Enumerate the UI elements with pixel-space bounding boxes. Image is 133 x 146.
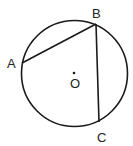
label-c: C bbox=[97, 130, 106, 145]
label-a: A bbox=[7, 56, 16, 71]
geometry-diagram: A B C O bbox=[0, 0, 133, 146]
diagram-svg: A B C O bbox=[0, 0, 133, 146]
center-point-o bbox=[73, 72, 76, 75]
chord-bc bbox=[96, 24, 99, 122]
label-b: B bbox=[92, 6, 101, 21]
chord-ab bbox=[22, 24, 96, 63]
label-o: O bbox=[70, 76, 80, 91]
